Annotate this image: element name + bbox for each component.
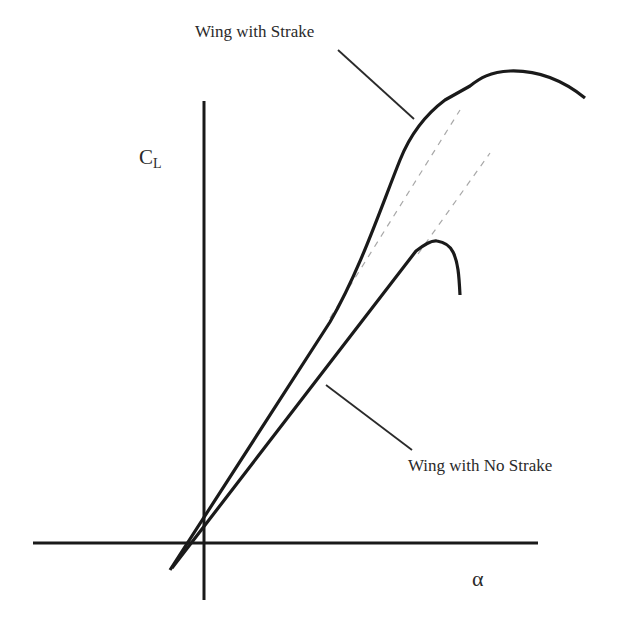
y-axis-label-subscript: L xyxy=(153,156,162,171)
label-wing-with-no-strake: Wing with No Strake xyxy=(408,456,552,476)
nostrake-linear-extension xyxy=(418,153,490,254)
lift-curve-diagram xyxy=(0,0,626,622)
curve-wing-with-no-strake xyxy=(172,241,460,568)
y-axis-label-main: C xyxy=(139,145,153,169)
leader-line-nostrake xyxy=(326,385,412,450)
x-axis-label: α xyxy=(472,566,484,592)
y-axis-label: CL xyxy=(139,145,162,172)
curve-wing-with-strake xyxy=(170,71,585,570)
leader-line-strake xyxy=(338,50,414,119)
label-wing-with-strake: Wing with Strake xyxy=(195,22,314,42)
